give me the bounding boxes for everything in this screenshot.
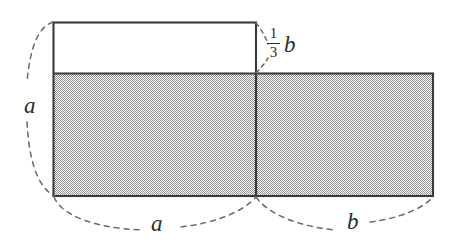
brace-left-height-lower (27, 122, 54, 196)
label-width-b: b (347, 210, 359, 233)
figure-canvas (0, 0, 454, 246)
brace-bottom-b-left (256, 197, 335, 230)
unshaded-strip (54, 23, 257, 74)
fraction-denominator: 3 (268, 45, 280, 61)
fraction-numerator: 1 (268, 26, 280, 42)
shaded-rect-left (54, 74, 257, 197)
shaded-rect-right (256, 74, 433, 197)
label-one-third-b: 1 3 b (267, 26, 296, 61)
geometry-figure: a a b 1 3 b (0, 0, 454, 246)
label-side-a: a (24, 94, 36, 117)
fraction-variable: b (284, 33, 296, 56)
brace-left-height-upper (27, 22, 53, 82)
fraction-one-third: 1 3 (267, 26, 280, 61)
label-width-a: a (151, 212, 163, 235)
brace-bottom-b-right (370, 197, 433, 222)
brace-bottom-a-right (181, 197, 256, 227)
brace-bottom-a-left (54, 197, 142, 230)
